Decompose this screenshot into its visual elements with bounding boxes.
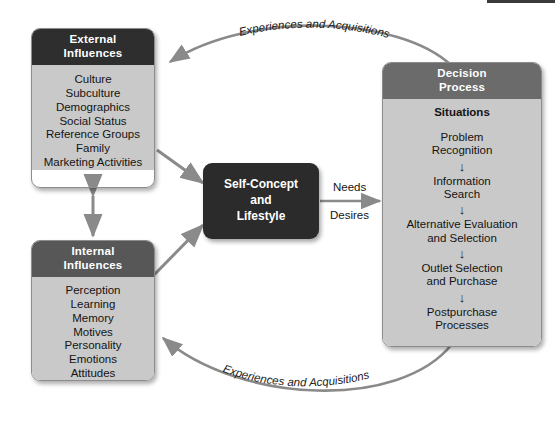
- flow-step-line2: and Purchase: [383, 275, 541, 288]
- list-item: Emotions: [32, 353, 154, 367]
- self-concept-line1: Self-Concept: [224, 177, 298, 193]
- flow-arrow-down-icon: ↓: [383, 292, 541, 303]
- list-item: Reference Groups: [32, 128, 154, 142]
- flow-step-problem-recognition: Problem Recognition: [383, 131, 541, 158]
- external-title-line2: Influences: [34, 47, 152, 61]
- flow-arrow-down-icon: ↓: [383, 161, 541, 172]
- external-to-center-arrow: [157, 150, 203, 183]
- top-edge-artifact: [487, 0, 555, 3]
- internal-title-line1: Internal: [34, 245, 152, 259]
- list-item: Social Status: [32, 115, 154, 129]
- flow-step-line1: Problem: [383, 131, 541, 144]
- desires-label: Desires: [330, 209, 369, 221]
- external-title-line1: External: [34, 33, 152, 47]
- bottom-arc-label: Experiences and Acquisitions: [222, 362, 371, 388]
- list-item: Subculture: [32, 87, 154, 101]
- external-influences-header: External Influences: [32, 29, 154, 65]
- needs-label: Needs: [333, 181, 366, 193]
- internal-influences-list: Perception Learning Memory Motives Perso…: [32, 277, 154, 381]
- decision-process-flow: Situations Problem Recognition ↓ Informa…: [383, 99, 541, 347]
- decision-title-line2: Process: [385, 81, 539, 95]
- decision-title-line1: Decision: [385, 67, 539, 81]
- list-item: Culture: [32, 73, 154, 87]
- flow-step-line1: Alternative Evaluation: [383, 218, 541, 231]
- self-concept-lifestyle-box: Self-Concept and Lifestyle: [203, 163, 319, 239]
- external-influences-list: Culture Subculture Demographics Social S…: [32, 65, 154, 170]
- list-item: Learning: [32, 298, 154, 312]
- list-item: Family: [32, 142, 154, 156]
- consumer-behavior-diagram: External Influences Culture Subculture D…: [0, 0, 555, 421]
- flow-step-line2: Search: [383, 188, 541, 201]
- flow-arrow-down-icon: ↓: [383, 248, 541, 259]
- flow-step-line1: Outlet Selection: [383, 262, 541, 275]
- internal-influences-header: Internal Influences: [32, 241, 154, 277]
- list-item: Attitudes: [32, 367, 154, 381]
- decision-process-header: Decision Process: [383, 63, 541, 99]
- flow-step-line1: Postpurchase: [383, 306, 541, 319]
- decision-process-panel: Decision Process Situations Problem Reco…: [382, 62, 542, 347]
- flow-step-line1: Information: [383, 175, 541, 188]
- self-concept-line3: Lifestyle: [237, 209, 286, 225]
- flow-step-line2: Processes: [383, 319, 541, 332]
- external-influences-panel: External Influences Culture Subculture D…: [31, 28, 155, 188]
- list-item: Personality: [32, 339, 154, 353]
- flow-arrow-down-icon: ↓: [383, 204, 541, 215]
- svg-text:Experiences and Acquisitions: Experiences and Acquisitions: [222, 362, 371, 388]
- list-item: Demographics: [32, 101, 154, 115]
- flow-step-postpurchase-processes: Postpurchase Processes: [383, 306, 541, 333]
- situations-label: Situations: [383, 106, 541, 120]
- flow-step-alternative-evaluation: Alternative Evaluation and Selection: [383, 218, 541, 245]
- self-concept-line2: and: [250, 193, 271, 209]
- flow-step-line2: Recognition: [383, 144, 541, 157]
- internal-influences-panel: Internal Influences Perception Learning …: [31, 240, 155, 381]
- flow-step-information-search: Information Search: [383, 175, 541, 202]
- list-item: Motives: [32, 326, 154, 340]
- internal-to-center-arrow: [152, 225, 203, 277]
- list-item: Marketing Activities: [32, 156, 154, 170]
- list-item: Perception: [32, 284, 154, 298]
- flow-step-line2: and Selection: [383, 232, 541, 245]
- top-arc-label: Experiences and Acquisitions: [238, 18, 392, 40]
- list-item: Memory: [32, 312, 154, 326]
- internal-title-line2: Influences: [34, 259, 152, 273]
- svg-text:Experiences and Acquisitions: Experiences and Acquisitions: [238, 18, 392, 40]
- flow-step-outlet-selection: Outlet Selection and Purchase: [383, 262, 541, 289]
- top-feedback-arc: [170, 26, 452, 66]
